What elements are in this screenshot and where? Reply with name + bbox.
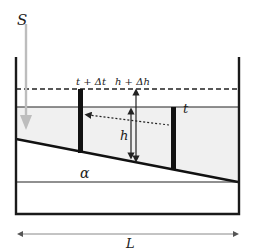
label-time-later: t + Δt [76, 76, 107, 87]
front-bar-now [171, 107, 176, 170]
label-source: S [17, 11, 27, 29]
label-time-now: t [183, 101, 189, 116]
label-depth-later: h + Δh [115, 76, 150, 87]
water-region [16, 107, 238, 181]
label-angle: α [80, 165, 90, 181]
label-length: L [125, 236, 135, 251]
aquifer-diagram: S t + Δt h + Δh t h α L [0, 0, 256, 252]
front-bar-later [78, 89, 83, 153]
label-depth: h [120, 128, 128, 143]
